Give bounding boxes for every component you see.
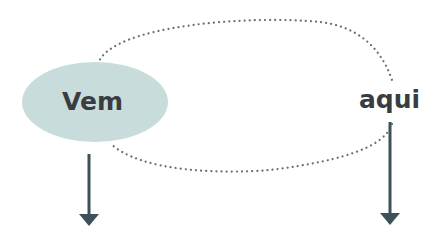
aqui-label: aqui — [359, 87, 420, 112]
arrow-down-icon — [79, 154, 99, 226]
diagram-canvas — [0, 0, 448, 242]
vem-label: Vem — [62, 89, 123, 114]
